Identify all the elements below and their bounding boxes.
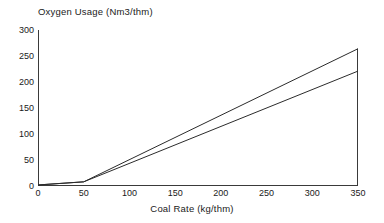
axis-lines (38, 30, 358, 186)
y-axis-tick-label: 250 (0, 51, 34, 61)
y-axis-tick-label: 0 (0, 181, 34, 191)
y-axis-tick-label: 100 (0, 129, 34, 139)
x-axis-tick-label: 350 (350, 188, 365, 198)
x-axis-tick-label: 300 (305, 188, 320, 198)
x-axis-tick-label: 0 (35, 188, 40, 198)
data-series-group (38, 49, 358, 185)
x-axis-tick-label: 50 (79, 188, 89, 198)
y-axis-tick-label: 200 (0, 77, 34, 87)
x-axis-title: Coal Rate (kg/thm) (0, 203, 384, 214)
chart-figure: Oxygen Usage (Nm3/thm) 05010015020025030… (0, 0, 384, 223)
x-axis-tick-label: 200 (213, 188, 228, 198)
x-axis-tick-label: 100 (122, 188, 137, 198)
plot-area: 050100150200250300 050100150200250300350 (38, 30, 358, 186)
y-axis-tick-label: 50 (0, 155, 34, 165)
y-axis-tick-label: 150 (0, 103, 34, 113)
data-line-upper (38, 49, 358, 185)
data-line-lower (38, 71, 358, 185)
x-axis-tick-label: 150 (168, 188, 183, 198)
y-axis-tick-label: 300 (0, 25, 34, 35)
chart-title: Oxygen Usage (Nm3/thm) (38, 6, 153, 17)
chart-plot-svg (38, 30, 358, 186)
x-axis-tick-label: 250 (259, 188, 274, 198)
